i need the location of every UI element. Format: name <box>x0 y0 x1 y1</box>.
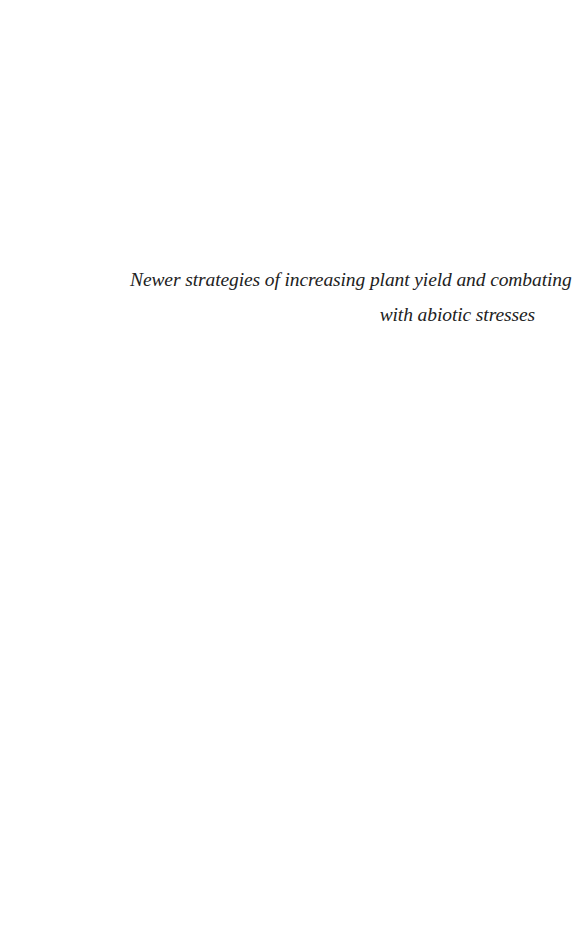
title-line-2: with abiotic stresses <box>130 297 535 332</box>
title-block: Newer strategies of increasing plant yie… <box>130 262 535 332</box>
title-line-1: Newer strategies of increasing plant yie… <box>130 262 535 297</box>
document-page: Newer strategies of increasing plant yie… <box>0 0 579 932</box>
